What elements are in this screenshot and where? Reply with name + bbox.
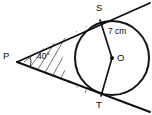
tangent-line-bottom — [17, 62, 150, 112]
geometry-figure: P S T O 7 cm 40° — [0, 0, 152, 115]
angle-arc-marker — [30, 56, 31, 67]
label-angle-measure: 40° — [37, 52, 50, 61]
hatch-line — [83, 21, 110, 99]
label-radius-measure: 7 cm — [108, 27, 126, 36]
label-point-p: P — [3, 51, 9, 61]
centre-point-dot — [110, 56, 114, 60]
geometry-canvas — [0, 0, 152, 115]
label-centre-o: O — [117, 53, 124, 63]
radius-line-ot — [101, 58, 112, 96]
label-point-s: S — [96, 3, 102, 13]
hatch-line — [63, 22, 97, 95]
label-point-t: T — [96, 100, 102, 110]
